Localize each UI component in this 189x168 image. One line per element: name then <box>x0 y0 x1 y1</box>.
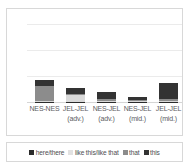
bar-segment-here-there <box>97 102 116 103</box>
bar-slot-jel-jel-adv <box>60 30 91 102</box>
legend-item-like-this-like-that[interactable]: like this/like that <box>68 149 118 156</box>
bar-nes-jel-adv[interactable] <box>97 92 116 102</box>
x-category-label-line1: NES-JEL <box>124 105 152 112</box>
legend-item-this[interactable]: this <box>144 149 160 156</box>
legend-swatch-icon <box>123 150 128 155</box>
x-category-jel-jel-mid: JEL-JEL (mid.) <box>152 104 185 123</box>
legend-swatch-icon <box>68 150 73 155</box>
legend-label: like this/like that <box>75 149 119 156</box>
bar-segment-here-there <box>66 102 85 103</box>
bar-jel-jel-mid[interactable] <box>159 83 178 103</box>
bar-segment-here-there <box>35 102 54 103</box>
legend-label: that <box>129 149 139 156</box>
bar-segment-this <box>97 92 116 99</box>
x-category-label-line1: NES-JEL <box>93 105 121 112</box>
bar-nes-nes[interactable] <box>35 80 54 102</box>
x-category-nes-jel-mid: NES-JEL (mid.) <box>121 104 154 123</box>
chart-figure: 150 100 50 0 <box>0 0 189 168</box>
bar-slot-jel-jel-mid <box>153 30 184 102</box>
x-category-jel-jel-adv: JEL-JEL (adv.) <box>59 104 92 123</box>
x-category-label-line2: (mid.) <box>152 114 185 124</box>
x-axis: NES-NES JEL-JEL (adv.) NES-JEL (adv.) NE… <box>27 104 182 136</box>
bar-nes-jel-mid[interactable] <box>128 97 147 102</box>
x-category-label-line1: JEL-JEL <box>63 105 88 112</box>
legend-label: here/there <box>36 149 65 156</box>
legend-item-that[interactable]: that <box>123 149 140 156</box>
bar-jel-jel-adv[interactable] <box>66 88 85 102</box>
bar-segment-this <box>159 83 178 99</box>
x-category-label-line2: (adv.) <box>90 114 123 124</box>
legend-swatch-icon <box>29 150 34 155</box>
chart-legend: here/there like this/like that that this <box>6 142 183 162</box>
x-category-label-line1: JEL-JEL <box>156 105 181 112</box>
legend-item-here-there[interactable]: here/there <box>29 149 64 156</box>
x-category-nes-nes: NES-NES <box>28 104 61 114</box>
bar-segment-here-there <box>159 102 178 103</box>
x-category-nes-jel-adv: NES-JEL (adv.) <box>90 104 123 123</box>
x-category-label-line1: NES-NES <box>29 105 59 112</box>
x-category-label-line2: (adv.) <box>59 114 92 124</box>
bar-segment-that <box>35 86 54 101</box>
bar-segment-here-there <box>128 102 147 103</box>
bar-slot-nes-jel-mid <box>122 30 153 102</box>
bar-slot-nes-nes <box>29 30 60 102</box>
bar-slot-nes-jel-adv <box>91 30 122 102</box>
legend-label: this <box>150 149 160 156</box>
x-category-label-line2: (mid.) <box>121 114 154 124</box>
legend-swatch-icon <box>144 150 149 155</box>
